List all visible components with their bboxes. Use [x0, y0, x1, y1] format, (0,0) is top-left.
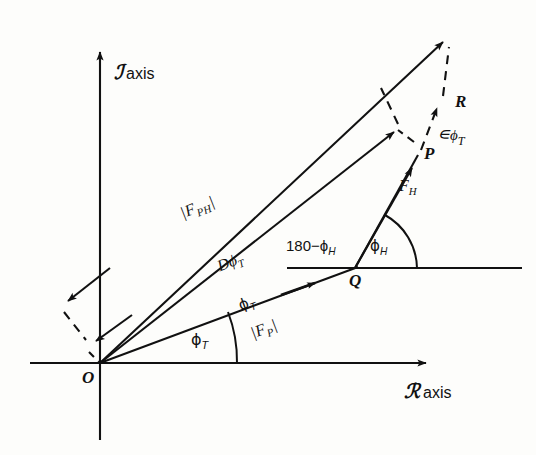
point-label-o: O	[82, 369, 94, 386]
epsilon-subscript: T	[458, 134, 465, 148]
real-axis-text: axis	[423, 384, 451, 401]
point-label-p: P	[424, 145, 434, 162]
dashed-left-connector	[64, 312, 86, 340]
supplementary-symbol: 180−ϕ	[286, 237, 328, 254]
imaginary-axis-text: axis	[126, 65, 154, 82]
angle-label-phi-h: ϕH	[370, 238, 387, 257]
fh-subscript: H	[409, 185, 417, 197]
imaginary-axis-symbol: ℐ	[114, 61, 126, 83]
point-label-r: R	[455, 93, 466, 110]
diagram-canvas	[0, 0, 536, 455]
dashed-lower-to-origin	[89, 352, 99, 362]
phi-t-origin-symbol: ϕ	[191, 330, 202, 349]
fh-symbol: F	[399, 177, 409, 194]
supplementary-subscript: H	[328, 246, 335, 257]
angle-label-supplementary: 180−ϕH	[286, 238, 336, 257]
dashed-r-to-fph-tip	[443, 47, 449, 96]
angle-arc-phi-t	[228, 312, 237, 363]
angle-label-phi-t-origin: ϕT	[191, 332, 208, 351]
epsilon-phi: ϕ	[450, 127, 458, 143]
real-axis-symbol: ℛ	[404, 380, 423, 402]
vector-label-fh: FH	[399, 178, 417, 197]
vector-dphit-line	[100, 132, 394, 363]
vector-diagram-figure: ℐaxis ℛaxis O Q P R |FPH| DϕT ϕT |FP| FH…	[0, 0, 536, 455]
phi-h-subscript: H	[380, 246, 387, 257]
point-label-q: Q	[349, 272, 361, 289]
angle-arc-phi-h	[385, 215, 417, 268]
phi-h-symbol: ϕ	[370, 237, 380, 255]
epsilon-symbol: ∊	[437, 124, 450, 144]
left-arrow-upper-fph	[68, 268, 110, 301]
label-epsilon-phi-t: ∊ϕT	[437, 125, 465, 147]
fp-direction-arrow	[281, 283, 315, 295]
imaginary-axis-label: ℐaxis	[114, 62, 154, 82]
phi-t-origin-subscript: T	[202, 339, 209, 351]
dashed-p-to-dphitip	[398, 130, 414, 142]
real-axis-label: ℛaxis	[404, 381, 451, 401]
